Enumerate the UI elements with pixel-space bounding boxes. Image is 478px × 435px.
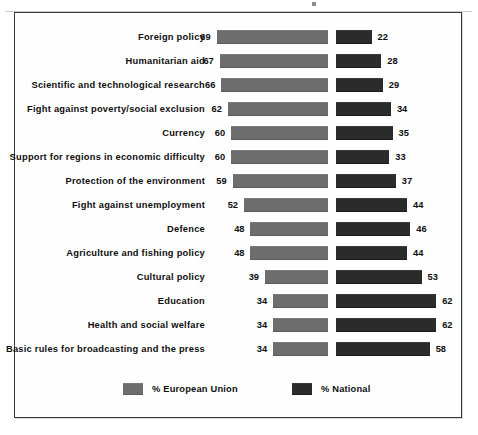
eu-value-label: 60	[185, 127, 225, 140]
bar-row: Fight against poverty/social exclusion62…	[0, 99, 478, 123]
eu-value-label: 52	[198, 199, 238, 212]
eu-bar	[231, 150, 328, 164]
eu-value-label: 34	[227, 319, 267, 332]
eu-bar	[273, 318, 328, 332]
chart-legend: % European Union % National	[0, 381, 478, 401]
category-label: Protection of the environment	[66, 175, 205, 188]
category-label: Agriculture and fishing policy	[66, 247, 205, 260]
national-bar	[336, 294, 436, 308]
national-bar	[336, 78, 383, 92]
eu-value-label: 66	[175, 79, 215, 92]
national-value-label: 46	[416, 223, 456, 236]
national-value-label: 62	[442, 319, 478, 332]
national-bar	[336, 318, 436, 332]
bar-row: Humanitarian aid6728	[0, 51, 478, 75]
national-value-label: 35	[399, 127, 439, 140]
bar-row: Education3462	[0, 291, 478, 315]
legend-item-national: % National	[292, 381, 371, 397]
category-label: Education	[158, 295, 205, 308]
national-bar	[336, 222, 410, 236]
category-label: Basic rules for broadcasting and the pre…	[6, 343, 205, 356]
national-value-label: 53	[428, 271, 468, 284]
national-value-label: 22	[378, 31, 418, 44]
eu-bar	[217, 30, 328, 44]
eu-bar	[273, 342, 328, 356]
bar-row: Fight against unemployment5244	[0, 195, 478, 219]
national-bar	[336, 126, 393, 140]
national-value-label: 44	[413, 247, 453, 260]
eu-value-label: 48	[204, 247, 244, 260]
eu-bar	[250, 246, 328, 260]
bar-row: Protection of the environment5937	[0, 171, 478, 195]
national-bar	[336, 102, 391, 116]
paired-bar-chart: Foreign policy6922Humanitarian aid6728Sc…	[0, 0, 478, 435]
category-label: Support for regions in economic difficul…	[10, 151, 205, 164]
national-bar	[336, 150, 389, 164]
category-label: Fight against unemployment	[72, 199, 205, 212]
eu-bar	[250, 222, 328, 236]
national-value-label: 62	[442, 295, 478, 308]
national-value-label: 37	[402, 175, 442, 188]
eu-bar	[233, 174, 328, 188]
bar-row: Foreign policy6922	[0, 27, 478, 51]
eu-bar	[231, 126, 328, 140]
national-bar	[336, 270, 422, 284]
eu-value-label: 34	[227, 295, 267, 308]
national-bar	[336, 54, 381, 68]
eu-bar	[228, 102, 328, 116]
bar-row: Scientific and technological research662…	[0, 75, 478, 99]
eu-bar	[273, 294, 328, 308]
eu-value-label: 67	[174, 55, 214, 68]
eu-value-label: 39	[219, 271, 259, 284]
legend-swatch-national	[292, 383, 312, 395]
legend-label-european-union: % European Union	[152, 384, 238, 394]
category-label: Defence	[167, 223, 205, 236]
bar-row: Defence4846	[0, 219, 478, 243]
legend-label-national: % National	[321, 384, 371, 394]
category-label: Fight against poverty/social exclusion	[27, 103, 205, 116]
national-bar	[336, 198, 407, 212]
eu-bar	[220, 54, 328, 68]
chart-page: Foreign policy6922Humanitarian aid6728Sc…	[0, 0, 478, 435]
national-bar	[336, 30, 372, 44]
national-value-label: 28	[387, 55, 427, 68]
eu-value-label: 59	[187, 175, 227, 188]
category-label: Health and social welfare	[88, 319, 205, 332]
national-bar	[336, 174, 396, 188]
national-value-label: 33	[395, 151, 435, 164]
bar-row: Currency6035	[0, 123, 478, 147]
eu-value-label: 34	[227, 343, 267, 356]
category-label: Cultural policy	[137, 271, 205, 284]
bar-row: Basic rules for broadcasting and the pre…	[0, 339, 478, 363]
bar-row: Health and social welfare3462	[0, 315, 478, 339]
national-value-label: 29	[389, 79, 429, 92]
legend-item-european-union: % European Union	[123, 381, 238, 397]
eu-bar	[221, 78, 328, 92]
eu-value-label: 62	[182, 103, 222, 116]
bar-row: Cultural policy3953	[0, 267, 478, 291]
eu-value-label: 69	[171, 31, 211, 44]
national-value-label: 34	[397, 103, 437, 116]
bar-row: Support for regions in economic difficul…	[0, 147, 478, 171]
eu-bar	[265, 270, 328, 284]
legend-swatch-european-union	[123, 383, 143, 395]
eu-value-label: 60	[185, 151, 225, 164]
eu-value-label: 48	[204, 223, 244, 236]
eu-bar	[244, 198, 328, 212]
national-value-label: 44	[413, 199, 453, 212]
bar-row: Agriculture and fishing policy4844	[0, 243, 478, 267]
national-bar	[336, 342, 430, 356]
national-bar	[336, 246, 407, 260]
national-value-label: 58	[436, 343, 476, 356]
